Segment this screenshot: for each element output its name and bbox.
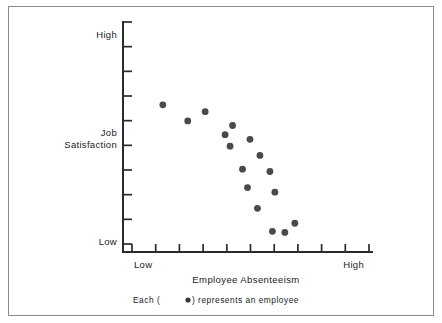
- data-point: [202, 108, 209, 115]
- caption-suffix: ) represents an employee: [192, 295, 299, 305]
- x-axis-title: Employee Absenteeism: [192, 274, 299, 285]
- y-axis-title-line2: Satisfaction: [64, 139, 117, 150]
- x-axis-low-label: Low: [134, 259, 152, 270]
- caption: Each ( ) represents an employee: [133, 295, 299, 305]
- chart-svg: High Low Job Satisfaction Low High Emplo…: [0, 0, 442, 323]
- data-point: [271, 189, 278, 196]
- caption-prefix: Each (: [133, 295, 160, 305]
- data-point: [244, 184, 251, 191]
- y-axis-ticks: [123, 22, 132, 244]
- data-point: [227, 143, 234, 150]
- data-point: [239, 166, 246, 173]
- data-point: [222, 131, 229, 138]
- data-point: [159, 101, 166, 108]
- data-point: [267, 168, 274, 175]
- data-point: [281, 229, 288, 236]
- caption-marker-icon: [185, 297, 190, 302]
- x-axis-ticks: [132, 244, 369, 252]
- data-point: [247, 136, 254, 143]
- data-point: [269, 228, 276, 235]
- figure-page: High Low Job Satisfaction Low High Emplo…: [0, 0, 442, 323]
- data-point: [257, 152, 264, 159]
- data-point: [229, 122, 236, 129]
- x-axis-high-label: High: [343, 259, 364, 270]
- y-axis-high-label: High: [96, 29, 117, 40]
- scatter-plot: High Low Job Satisfaction Low High Emplo…: [0, 0, 442, 323]
- data-point: [291, 220, 298, 227]
- data-points: [159, 101, 298, 235]
- y-axis-low-label: Low: [99, 236, 117, 247]
- data-point: [254, 205, 261, 212]
- y-axis-title-line1: Job: [101, 127, 117, 138]
- data-point: [184, 118, 191, 125]
